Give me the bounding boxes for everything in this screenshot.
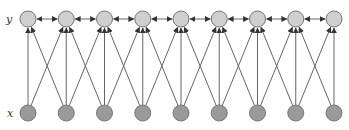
y-node-0 [20, 11, 36, 27]
y-node-7 [288, 11, 304, 27]
graphical-model-diagram: y x [0, 0, 349, 130]
x-node-2 [97, 105, 113, 121]
y-row-label: y [5, 13, 13, 26]
x-node-0 [20, 105, 36, 121]
y-node-4 [173, 11, 189, 27]
x-node-8 [326, 105, 342, 121]
y-node-8 [326, 11, 342, 27]
x-node-1 [58, 105, 74, 121]
x-row-label: x [7, 107, 14, 120]
x-node-6 [250, 105, 266, 121]
x-node-4 [173, 105, 189, 121]
y-node-1 [58, 11, 74, 27]
x-node-5 [211, 105, 227, 121]
y-node-3 [135, 11, 151, 27]
x-node-7 [288, 105, 304, 121]
y-node-5 [211, 11, 227, 27]
edges [28, 19, 334, 106]
x-node-3 [135, 105, 151, 121]
y-node-6 [250, 11, 266, 27]
y-node-2 [97, 11, 113, 27]
